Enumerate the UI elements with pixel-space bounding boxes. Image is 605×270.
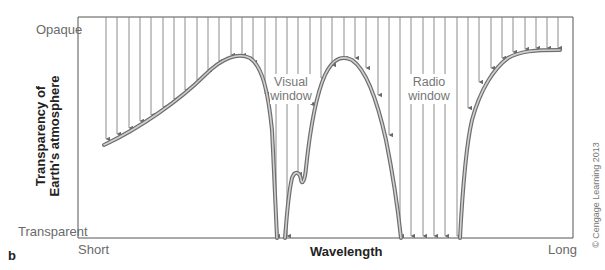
transparency-curve	[104, 50, 560, 238]
visual-window-label-line2: window	[270, 89, 312, 103]
y-bottom-label: Transparent	[18, 224, 88, 239]
transparency-diagram	[0, 0, 605, 270]
visual-window-label-line1: Visual	[270, 75, 312, 89]
incoming-radiation-arrows	[106, 17, 558, 236]
radio-window-label-line1: Radio	[408, 75, 450, 89]
x-right-label: Long	[548, 242, 577, 257]
plot-frame	[78, 17, 573, 238]
copyright-credit: © Cengage Learning 2013	[591, 142, 601, 248]
radio-window-label-line2: window	[408, 89, 450, 103]
panel-label: b	[8, 248, 16, 263]
y-axis-title: Transparency of Earth's atmosphere	[34, 76, 62, 197]
y-axis-title-line1: Transparency of	[34, 76, 48, 197]
visual-window-label: Visual window	[270, 74, 312, 104]
x-left-label: Short	[78, 242, 109, 257]
radio-window-label: Radio window	[408, 74, 450, 104]
x-axis-title: Wavelength	[310, 244, 382, 259]
y-axis-title-line2: Earth's atmosphere	[48, 76, 62, 197]
y-top-label: Opaque	[36, 22, 82, 37]
